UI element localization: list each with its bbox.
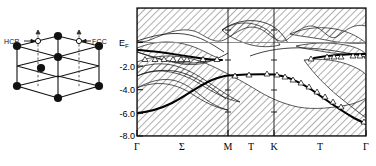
xtick-label-t-left: T xyxy=(248,141,254,152)
xtick-label-gamma-right: Γ xyxy=(363,141,369,152)
fcc-label: FCC xyxy=(92,38,107,45)
band-structure-svg: EF -2.0 -4.0 -6.0 -8.0 E (eV) Γ Σ M T K … xyxy=(118,0,376,166)
ytick-label-minus8: -8.0 xyxy=(119,131,135,141)
xtick-label-m: M xyxy=(224,141,233,152)
xtick-label-t-right: T xyxy=(317,141,323,152)
ytick-label-minus6: -6.0 xyxy=(119,109,135,119)
lattice-frame xyxy=(17,36,99,98)
band-structure-plot: EF -2.0 -4.0 -6.0 -8.0 E (eV) Γ Σ M T K … xyxy=(118,0,376,166)
lattice-site-diagram: HCP FCC xyxy=(0,0,118,166)
xtick-label-gamma-left: Γ xyxy=(134,141,140,152)
xtick-label-sigma: Σ xyxy=(179,141,185,152)
ytick-label-minus2: -2.0 xyxy=(119,62,135,72)
figure-root: HCP FCC xyxy=(0,0,376,166)
hcp-label: HCP xyxy=(4,38,20,45)
ytick-label-ef: EF xyxy=(119,38,129,49)
lattice-svg: HCP FCC xyxy=(0,0,118,166)
xtick-label-k: K xyxy=(270,141,278,152)
ytick-label-minus4: -4.0 xyxy=(119,85,135,95)
